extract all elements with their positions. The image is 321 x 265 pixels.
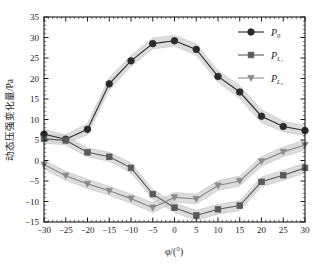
data-point-PL1 <box>193 213 199 219</box>
x-tick-label: 0 <box>172 225 177 235</box>
data-point-PL1 <box>172 205 178 211</box>
y-tick-label: −15 <box>25 217 40 227</box>
x-tick-label: −5 <box>148 225 158 235</box>
y-tick-label: −10 <box>25 197 40 207</box>
data-point-PL1 <box>106 154 112 160</box>
y-tick-label: 25 <box>30 53 40 63</box>
data-point-P0 <box>106 81 113 88</box>
y-tick-label: −5 <box>29 176 39 186</box>
y-tick-label: 10 <box>30 115 40 125</box>
y-axis-title: 动态压强变化量/Pa <box>4 78 15 161</box>
legend-marker-P0 <box>248 29 255 36</box>
data-point-P0 <box>258 113 265 120</box>
data-point-PL1 <box>215 206 221 212</box>
chart-figure: −30−25−20−15−10−5051015202530−15−10−5051… <box>0 0 321 265</box>
legend-label-base: P <box>270 73 277 84</box>
data-point-P0 <box>149 40 156 47</box>
y-tick-label: 35 <box>30 12 40 22</box>
data-point-P0 <box>128 58 135 65</box>
x-tick-label: −10 <box>124 225 139 235</box>
y-tick-label: 20 <box>30 74 40 84</box>
data-point-P0 <box>171 37 178 44</box>
x-tick-label: 5 <box>194 225 199 235</box>
x-axis-title: φ/(°) <box>165 247 183 258</box>
data-point-P0 <box>236 89 243 96</box>
x-tick-label: −30 <box>37 225 52 235</box>
legend-label-subscript: L₂ <box>276 78 284 85</box>
x-tick-label: 25 <box>279 225 289 235</box>
legend-label-base: P <box>270 50 277 61</box>
legend-label-subscript: L₁ <box>276 55 283 62</box>
legend-label-base: P <box>270 27 277 38</box>
data-point-PL1 <box>85 150 91 156</box>
data-point-PL1 <box>259 179 265 185</box>
data-point-P0 <box>193 46 200 53</box>
data-point-P0 <box>215 73 222 80</box>
data-point-PL1 <box>280 172 286 178</box>
x-tick-label: 20 <box>257 225 267 235</box>
y-tick-label: 15 <box>30 94 40 104</box>
data-point-PL1 <box>63 138 69 144</box>
x-tick-label: −20 <box>80 225 95 235</box>
data-point-PL1 <box>128 165 134 171</box>
y-tick-label: 0 <box>35 156 40 166</box>
legend-marker-PL1 <box>248 52 254 58</box>
data-point-PL1 <box>237 203 243 209</box>
x-tick-label: −25 <box>59 225 74 235</box>
x-tick-label: 30 <box>301 225 311 235</box>
y-tick-label: 5 <box>35 135 40 145</box>
x-tick-label: 15 <box>235 225 245 235</box>
data-point-P0 <box>84 126 91 133</box>
y-axis-title-cjk: 动态压强变化量 <box>4 91 15 161</box>
x-tick-label: −15 <box>102 225 117 235</box>
x-tick-label: 10 <box>214 225 224 235</box>
y-axis-title-unit: /Pa <box>5 78 15 91</box>
y-tick-label: 30 <box>30 33 40 43</box>
dynamic-pressure-variation-chart: −30−25−20−15−10−5051015202530−15−10−5051… <box>0 0 321 265</box>
data-point-PL1 <box>150 191 156 197</box>
data-point-P0 <box>280 123 287 130</box>
